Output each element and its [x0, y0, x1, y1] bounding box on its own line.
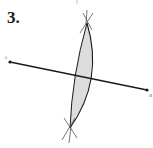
construction-diagram: A B — [0, 0, 153, 148]
point-b-label: B — [149, 93, 152, 98]
point-a — [8, 60, 11, 63]
point-a-label: A — [3, 55, 8, 60]
point-b — [145, 88, 148, 91]
